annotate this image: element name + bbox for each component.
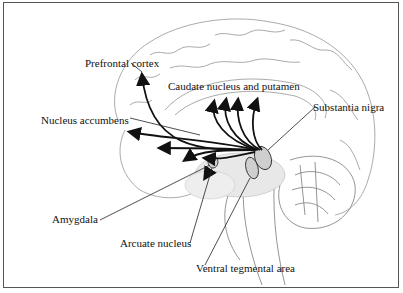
label-arcuate-nucleus: Arcuate nucleus — [120, 237, 191, 249]
label-caudate-putamen: Caudate nucleus and putamen — [168, 80, 300, 92]
label-amygdala: Amygdala — [52, 213, 98, 225]
label-nucleus-accumbens: Nucleus accumbens — [41, 114, 129, 126]
label-substantia-nigra: Substantia nigra — [313, 101, 384, 113]
label-prefrontal-cortex: Prefrontal cortex — [85, 57, 159, 69]
label-ventral-tegmental-area: Ventral tegmental area — [196, 262, 295, 274]
brain-diagram — [0, 0, 403, 293]
cerebellum — [279, 156, 356, 228]
